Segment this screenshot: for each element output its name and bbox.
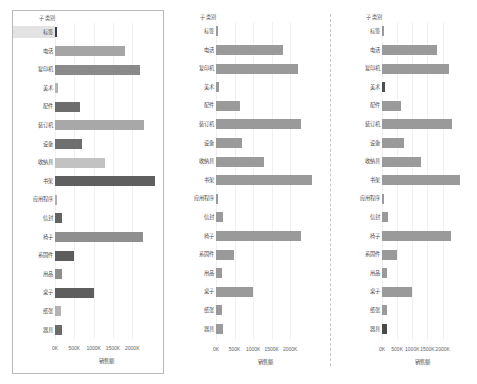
category-label[interactable]: 纸张: [13, 305, 55, 317]
bar[interactable]: [216, 82, 219, 92]
bar[interactable]: [382, 194, 384, 204]
bar-row[interactable]: 器具: [340, 320, 468, 339]
category-label[interactable]: 收纳具: [340, 155, 382, 167]
bar[interactable]: [55, 325, 62, 335]
bar[interactable]: [216, 324, 223, 334]
category-label[interactable]: 应用程序: [174, 192, 216, 204]
category-label[interactable]: 美术: [13, 82, 55, 94]
bar[interactable]: [382, 119, 452, 129]
category-label[interactable]: 器具: [13, 324, 55, 336]
category-label[interactable]: 复印机: [13, 63, 55, 75]
category-label[interactable]: 椅子: [13, 231, 55, 243]
bar-row[interactable]: 电话: [13, 42, 163, 61]
bar-row[interactable]: 装订机: [174, 115, 320, 134]
bar-row[interactable]: 应用程序: [174, 189, 320, 208]
bar-row[interactable]: 桌子: [13, 283, 163, 302]
bar[interactable]: [216, 119, 301, 129]
bar-row[interactable]: 美术: [340, 78, 468, 97]
bar[interactable]: [55, 46, 125, 56]
bar-row[interactable]: 信封: [174, 208, 320, 227]
bar-row[interactable]: 椅子: [340, 227, 468, 246]
bar[interactable]: [216, 138, 242, 148]
bar[interactable]: [216, 287, 253, 297]
bar-row[interactable]: 纸张: [13, 302, 163, 321]
bar[interactable]: [382, 268, 387, 278]
bar[interactable]: [382, 287, 412, 297]
bar-row[interactable]: 收纳具: [174, 152, 320, 171]
category-label[interactable]: 电话: [340, 44, 382, 56]
bar[interactable]: [55, 102, 80, 112]
category-label[interactable]: 用品: [174, 267, 216, 279]
bar[interactable]: [382, 82, 385, 92]
bar[interactable]: [55, 176, 155, 186]
bar-row[interactable]: 设备: [174, 134, 320, 153]
category-label[interactable]: 桌子: [13, 286, 55, 298]
bar[interactable]: [382, 157, 421, 167]
bar[interactable]: [216, 305, 222, 315]
category-label[interactable]: 桌子: [174, 285, 216, 297]
bar-row[interactable]: 标签: [174, 22, 320, 41]
bar-row[interactable]: 电话: [174, 41, 320, 60]
category-label[interactable]: 椅子: [174, 230, 216, 242]
category-label[interactable]: 标签: [13, 26, 55, 38]
bar-row[interactable]: 椅子: [13, 228, 163, 247]
bar[interactable]: [55, 306, 61, 316]
bar-row[interactable]: 设备: [340, 134, 468, 153]
category-label[interactable]: 标签: [340, 25, 382, 37]
bar-row[interactable]: 系固件: [174, 245, 320, 264]
category-label[interactable]: 纸张: [174, 304, 216, 316]
category-label[interactable]: 椅子: [340, 230, 382, 242]
category-label[interactable]: 纸张: [340, 304, 382, 316]
bar[interactable]: [216, 26, 218, 36]
bar-row[interactable]: 标签: [13, 23, 163, 42]
category-label[interactable]: 应用程序: [13, 193, 55, 205]
category-label[interactable]: 设备: [174, 137, 216, 149]
category-label[interactable]: 复印机: [174, 62, 216, 74]
bar-row[interactable]: 复印机: [340, 59, 468, 78]
bar[interactable]: [382, 212, 388, 222]
bar-row[interactable]: 美术: [13, 79, 163, 98]
category-label[interactable]: 复印机: [340, 62, 382, 74]
bar-row[interactable]: 用品: [174, 264, 320, 283]
category-label[interactable]: 配件: [340, 99, 382, 111]
bar-row[interactable]: 椅子: [174, 227, 320, 246]
bar[interactable]: [55, 83, 58, 93]
bar-row[interactable]: 器具: [174, 320, 320, 339]
bar-row[interactable]: 桌子: [174, 282, 320, 301]
bar[interactable]: [216, 194, 218, 204]
bar[interactable]: [216, 250, 234, 260]
bar[interactable]: [55, 251, 74, 261]
bar[interactable]: [55, 139, 82, 149]
bar-row[interactable]: 收纳具: [13, 153, 163, 172]
category-label[interactable]: 电话: [13, 45, 55, 57]
bar-row[interactable]: 用品: [13, 265, 163, 284]
category-label[interactable]: 配件: [13, 100, 55, 112]
bar[interactable]: [382, 305, 387, 315]
bar[interactable]: [55, 27, 57, 37]
bar-row[interactable]: 信封: [340, 208, 468, 227]
bar-row[interactable]: 复印机: [174, 59, 320, 78]
category-label[interactable]: 用品: [13, 268, 55, 280]
category-label[interactable]: 电话: [174, 44, 216, 56]
bar[interactable]: [55, 65, 140, 75]
bar[interactable]: [382, 101, 401, 111]
category-label[interactable]: 书架: [13, 175, 55, 187]
bar[interactable]: [382, 231, 451, 241]
bar[interactable]: [216, 268, 222, 278]
bar[interactable]: [382, 175, 460, 185]
bar-row[interactable]: 收纳具: [340, 152, 468, 171]
category-label[interactable]: 收纳具: [174, 155, 216, 167]
bar-row[interactable]: 配件: [340, 96, 468, 115]
bar[interactable]: [216, 45, 283, 55]
category-label[interactable]: 美术: [340, 81, 382, 93]
bar[interactable]: [216, 157, 264, 167]
bar[interactable]: [55, 269, 62, 279]
bar[interactable]: [382, 26, 384, 36]
category-label[interactable]: 器具: [340, 323, 382, 335]
bar-row[interactable]: 美术: [174, 78, 320, 97]
category-label[interactable]: 系固件: [174, 248, 216, 260]
category-label[interactable]: 用品: [340, 267, 382, 279]
bar[interactable]: [216, 175, 312, 185]
bar-row[interactable]: 系固件: [340, 245, 468, 264]
category-label[interactable]: 书架: [340, 174, 382, 186]
